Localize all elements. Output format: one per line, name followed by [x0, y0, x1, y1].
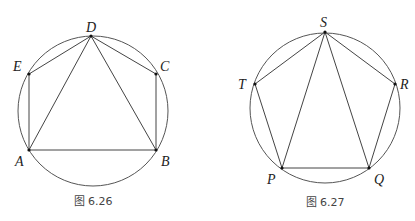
point-A	[27, 148, 30, 151]
segment-DE	[29, 36, 91, 74]
point-P	[280, 166, 283, 169]
point-C	[154, 72, 157, 75]
label-R: R	[399, 77, 409, 92]
label-Q: Q	[374, 172, 384, 187]
circumcircle	[18, 36, 168, 186]
caption-fig-6-27: 图 6.27	[306, 196, 345, 209]
label-B: B	[161, 154, 170, 169]
segment-DA	[29, 36, 91, 150]
diagram-canvas: D E C A B 图 6.26 S T R P Q 图 6.27	[0, 0, 415, 221]
segment-DB	[91, 36, 156, 150]
label-C: C	[160, 59, 170, 74]
label-P: P	[266, 172, 276, 187]
label-T: T	[238, 77, 247, 92]
label-A: A	[14, 154, 24, 169]
segment-RQ	[369, 84, 395, 168]
caption-fig-6-26: 图 6.26	[74, 195, 113, 208]
point-Q	[367, 166, 370, 169]
label-E: E	[12, 59, 22, 74]
label-S: S	[320, 15, 327, 30]
segment-TP	[255, 84, 282, 168]
point-S	[323, 30, 326, 33]
point-R	[393, 82, 396, 85]
point-T	[253, 82, 256, 85]
figure-6-26: D E C A B 图 6.26	[12, 20, 170, 208]
segment-SQ	[325, 32, 369, 168]
segment-SR	[325, 32, 395, 84]
point-E	[27, 72, 30, 75]
figure-6-27: S T R P Q 图 6.27	[238, 15, 409, 209]
circumcircle	[250, 33, 400, 183]
segment-ST	[255, 32, 325, 84]
label-D: D	[85, 20, 96, 35]
point-B	[154, 148, 157, 151]
segment-DC	[91, 36, 156, 74]
segment-SP	[282, 32, 325, 168]
